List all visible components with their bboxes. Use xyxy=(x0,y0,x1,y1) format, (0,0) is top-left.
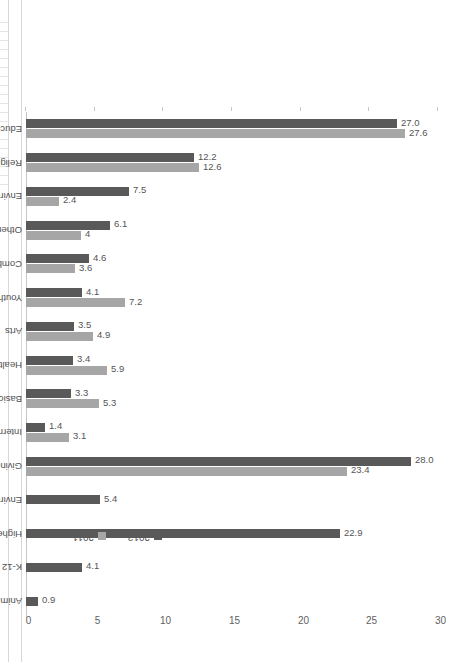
bar-value-label: 5.4 xyxy=(104,493,117,504)
bar-value-label: 3.5 xyxy=(78,319,91,330)
category-label-text: Religious xyxy=(0,157,22,168)
bar-2011: 5.3 xyxy=(26,399,99,408)
category-label-text: Education xyxy=(0,123,22,134)
axis-tick-mark xyxy=(231,107,232,111)
bar-group: 1.43.1 xyxy=(26,416,438,450)
bar-value-label: 12.2 xyxy=(198,151,217,162)
bar-group: 3.54.9 xyxy=(26,314,438,348)
bar-2011: 4.9 xyxy=(26,332,93,341)
bar-2013: 6.1 xyxy=(26,221,110,230)
bar-value-label: 5.3 xyxy=(103,397,116,408)
bar-group: 3.45.9 xyxy=(26,348,438,382)
axis-tick-mark xyxy=(25,107,26,111)
category-label-text: Environment xyxy=(0,494,22,505)
axis-tick-mark xyxy=(94,107,95,111)
bar-value-label: 3.4 xyxy=(77,353,90,364)
bar-2013: 3.3 xyxy=(26,389,71,398)
bar-group: 12.212.6 xyxy=(26,146,438,180)
legend-swatch-icon xyxy=(98,533,106,541)
bar-group: 4.63.6 xyxy=(26,247,438,281)
bar-2011: 7.2 xyxy=(26,298,125,307)
category-label: International xyxy=(0,416,24,450)
bar-2011: 4 xyxy=(26,231,81,240)
category-label: Environment xyxy=(0,483,24,517)
bar-value-label: 27.6 xyxy=(409,127,428,138)
bar-value-label: 5.9 xyxy=(111,363,124,374)
bar-value-label: 3.3 xyxy=(75,387,88,398)
bar-2013: 3.5 xyxy=(26,322,74,331)
chart-page: 051015202530 27.027.612.212.67.52.46.144… xyxy=(0,0,469,662)
bar-group: 27.027.6 xyxy=(26,112,438,146)
bar-2013: 1.4 xyxy=(26,423,45,432)
bar-value-label: 22.9 xyxy=(344,527,363,538)
bar-value-label: 4.9 xyxy=(97,329,110,340)
category-label: Health xyxy=(0,348,24,382)
category-label: Combination xyxy=(0,247,24,281)
bar-value-label: 4.1 xyxy=(86,286,99,297)
legend-item-2013[interactable]: 2013 xyxy=(128,531,162,542)
category-label-text: Combination xyxy=(0,258,22,269)
legend-label: 2011 xyxy=(72,531,94,542)
bar-value-label: 3.6 xyxy=(79,262,92,273)
bar-group: 4.17.2 xyxy=(26,281,438,315)
bar-value-label: 0.9 xyxy=(42,594,55,605)
bar-2011: 3.1 xyxy=(26,433,69,442)
category-label: Animals xyxy=(0,584,24,618)
category-label: Education xyxy=(0,112,24,146)
bar-value-label: 7.5 xyxy=(133,184,146,195)
legend-item-2011[interactable]: 2011 xyxy=(72,531,106,542)
category-label-text: Giving Vehicles xyxy=(0,461,22,472)
bar-2011: 12.6 xyxy=(26,163,199,172)
chart-stage: 051015202530 27.027.612.212.67.52.46.144… xyxy=(0,0,448,640)
bar-group: 28.023.4 xyxy=(26,449,438,483)
category-label-text: International xyxy=(0,427,22,438)
bar-2011: 27.6 xyxy=(26,129,405,138)
category-label-text: Basic Needs xyxy=(0,393,22,404)
category-label: K-12 Education xyxy=(0,551,24,585)
bar-2013: 0.9 xyxy=(26,597,38,606)
category-label: Basic Needs xyxy=(0,382,24,416)
bar-2011: 23.4 xyxy=(26,467,347,476)
bar-value-label: 1.4 xyxy=(49,420,62,431)
category-label-text: Animals xyxy=(0,596,22,607)
bar-2011: 3.6 xyxy=(26,264,75,273)
category-label: Religious xyxy=(0,146,24,180)
category-label: Environment/Animal Care xyxy=(0,179,24,213)
category-label-text: Higher Education xyxy=(0,528,22,539)
bar-2011: 2.4 xyxy=(26,197,59,206)
bar-2013: 27.0 xyxy=(26,119,397,128)
category-label: Giving Vehicles xyxy=(0,449,24,483)
bar-2013: 4.1 xyxy=(26,288,82,297)
bar-2013: 12.2 xyxy=(26,153,194,162)
bar-2013: 3.4 xyxy=(26,356,73,365)
bar-group: 0.9 xyxy=(26,584,438,618)
category-label-text: Youth/Family Services xyxy=(0,292,22,303)
bar-group: 7.52.4 xyxy=(26,179,438,213)
bar-value-label: 6.1 xyxy=(114,218,127,229)
category-label: Higher Education xyxy=(0,517,24,551)
axis-tick-mark xyxy=(300,107,301,111)
category-label-text: Arts xyxy=(5,326,22,337)
category-label-text: Environment/Animal Care xyxy=(0,191,22,202)
category-label: Arts xyxy=(0,314,24,348)
bar-2013: 5.4 xyxy=(26,495,100,504)
bar-value-label: 28.0 xyxy=(415,454,434,465)
category-label: Other xyxy=(0,213,24,247)
category-label-text: K-12 Education xyxy=(0,562,22,573)
category-axis-labels: EducationReligiousEnvironment/Animal Car… xyxy=(0,112,24,618)
bar-group: 5.4 xyxy=(26,483,438,517)
category-label-text: Health xyxy=(0,360,22,371)
bar-2013: 7.5 xyxy=(26,187,129,196)
bar-value-label: 12.6 xyxy=(203,161,222,172)
axis-tick-mark xyxy=(437,107,438,111)
bar-value-label: 7.2 xyxy=(129,296,142,307)
category-label: Youth/Family Services xyxy=(0,281,24,315)
bar-value-label: 4 xyxy=(85,228,90,239)
bar-group: 3.35.3 xyxy=(26,382,438,416)
category-label-text: Other xyxy=(0,225,22,236)
bar-value-label: 4.6 xyxy=(93,252,106,263)
legend: 20132011 xyxy=(42,540,162,566)
axis-tick-mark xyxy=(162,107,163,111)
bar-group: 6.14 xyxy=(26,213,438,247)
bar-2011: 5.9 xyxy=(26,366,107,375)
